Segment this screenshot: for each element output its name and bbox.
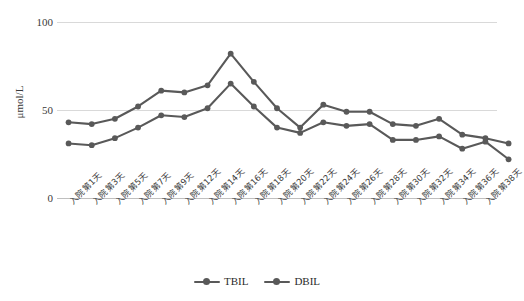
data-point-dbil xyxy=(297,130,303,136)
data-point-tbil xyxy=(413,123,419,129)
data-point-dbil xyxy=(205,105,211,111)
data-point-dbil xyxy=(89,142,95,148)
data-point-dbil xyxy=(274,125,280,131)
data-point-tbil xyxy=(135,104,141,110)
data-point-dbil xyxy=(320,119,326,125)
legend-item-dbil[interactable]: DBIL xyxy=(264,276,320,287)
legend-item-tbil[interactable]: TBIL xyxy=(194,276,248,287)
data-point-tbil xyxy=(66,119,72,125)
data-point-tbil xyxy=(89,121,95,127)
data-point-dbil xyxy=(251,104,257,110)
data-point-tbil xyxy=(158,88,164,94)
data-point-tbil xyxy=(344,109,350,115)
data-point-tbil xyxy=(390,121,396,127)
data-point-tbil xyxy=(228,51,234,57)
data-point-dbil xyxy=(181,114,187,120)
data-point-tbil xyxy=(297,125,303,131)
data-point-tbil xyxy=(112,116,118,122)
data-point-tbil xyxy=(205,82,211,88)
legend-marker-icon xyxy=(194,277,220,287)
data-point-dbil xyxy=(390,137,396,143)
data-point-tbil xyxy=(459,132,465,138)
data-point-dbil xyxy=(367,121,373,127)
data-point-dbil xyxy=(66,141,72,147)
data-point-dbil xyxy=(135,125,141,131)
data-point-tbil xyxy=(274,105,280,111)
data-point-dbil xyxy=(483,139,489,145)
data-point-dbil xyxy=(436,134,442,140)
data-point-tbil xyxy=(181,90,187,96)
data-point-tbil xyxy=(506,141,512,147)
x-axis-tick-labels: 入院第1天入院第3天入院第5天入院第7天入院第9天入院第12天入院第14天入院第… xyxy=(57,200,497,270)
data-point-dbil xyxy=(413,137,419,143)
data-point-dbil xyxy=(459,146,465,152)
data-point-dbil xyxy=(158,112,164,118)
data-point-dbil xyxy=(344,123,350,129)
data-point-tbil xyxy=(436,116,442,122)
data-point-dbil xyxy=(506,156,512,162)
data-point-tbil xyxy=(251,79,257,85)
data-point-tbil xyxy=(320,102,326,108)
chart-legend: TBILDBIL xyxy=(0,276,514,287)
legend-label: DBIL xyxy=(294,276,320,287)
data-point-dbil xyxy=(228,81,234,87)
data-point-dbil xyxy=(112,135,118,141)
data-point-tbil xyxy=(367,109,373,115)
legend-marker-icon xyxy=(264,277,290,287)
legend-label: TBIL xyxy=(224,276,248,287)
